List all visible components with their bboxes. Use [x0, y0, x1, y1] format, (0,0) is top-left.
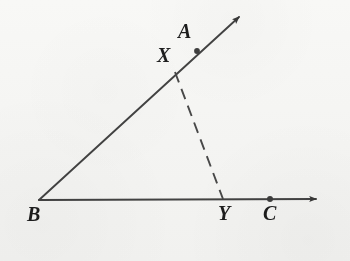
point-label-c: C: [263, 203, 276, 223]
ray-bc: [39, 199, 316, 200]
ray-ba: [39, 17, 239, 200]
point-a-dot: [194, 48, 200, 54]
point-label-b: B: [27, 204, 40, 224]
geometry-figure: A X B Y C: [0, 0, 350, 261]
point-label-x: X: [157, 45, 170, 65]
figure-canvas: [0, 0, 350, 261]
point-label-y: Y: [218, 203, 230, 223]
point-label-a: A: [178, 21, 191, 41]
segment-xy: [175, 72, 223, 199]
